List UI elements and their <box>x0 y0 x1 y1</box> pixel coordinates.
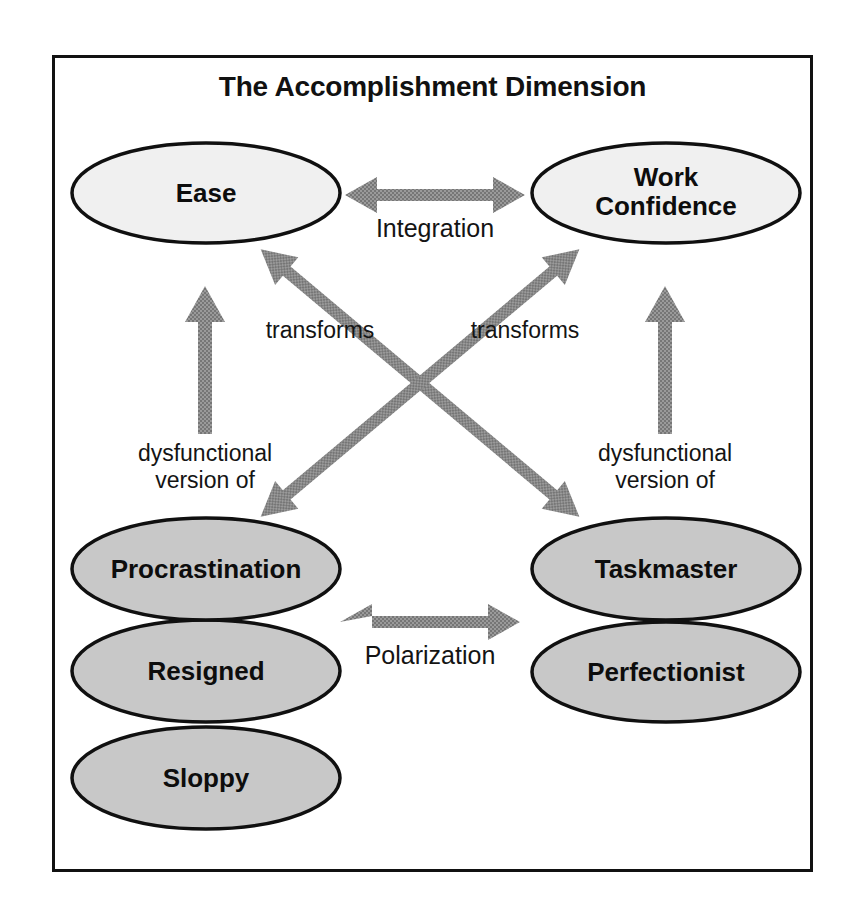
edge-label-transforms-right: transforms <box>445 317 605 344</box>
edge-label-dysfunctional-left-line1: dysfunctional <box>95 440 315 467</box>
edge-dysfunctional-left-arrow <box>185 286 225 434</box>
edge-integration-arrow <box>345 177 525 213</box>
edge-label-transforms-left: transforms <box>240 317 400 344</box>
edge-polarization-arrow <box>340 604 520 640</box>
node-perfectionist[interactable] <box>532 622 800 722</box>
edge-label-polarization: Polarization <box>340 641 520 671</box>
edge-dysfunctional-right-arrow <box>645 286 685 434</box>
edge-label-dysfunctional-right: dysfunctional version of <box>555 440 775 494</box>
diagram-canvas: The Accomplishment Dimension <box>0 0 858 918</box>
node-work-confidence[interactable] <box>532 143 800 243</box>
edge-label-dysfunctional-right-line1: dysfunctional <box>555 440 775 467</box>
node-resigned[interactable] <box>72 620 340 722</box>
edge-label-dysfunctional-left: dysfunctional version of <box>95 440 315 494</box>
edge-label-integration: Integration <box>345 214 525 244</box>
node-taskmaster[interactable] <box>532 518 800 620</box>
node-sloppy[interactable] <box>72 727 340 829</box>
node-ease[interactable] <box>72 143 340 243</box>
edge-label-dysfunctional-right-line2: version of <box>555 467 775 494</box>
node-procrastination[interactable] <box>72 518 340 620</box>
edge-label-dysfunctional-left-line2: version of <box>95 467 315 494</box>
